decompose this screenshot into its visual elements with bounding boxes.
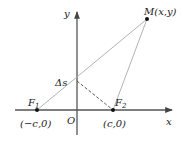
ellipse-focus-diagram: y x O M(x,y) Δs F1 F2 (−c,0) (c,0) (0, 0, 183, 148)
f2-coord-label: (c,0) (103, 118, 126, 129)
point-f2 (111, 108, 115, 112)
x-axis-label: x (166, 116, 172, 127)
f2-label: F2 (114, 97, 127, 110)
f1-coord-label: (−c,0) (20, 118, 51, 129)
delta-s-label: Δs (54, 77, 67, 88)
point-m (145, 17, 149, 21)
y-axis-label: y (63, 8, 70, 19)
point-m-label: M(x,y) (143, 6, 177, 17)
f1-label: F1 (27, 97, 39, 110)
line-f1-m (37, 19, 147, 110)
dashed-delta-f2 (77, 81, 113, 110)
origin-label: O (67, 115, 75, 126)
